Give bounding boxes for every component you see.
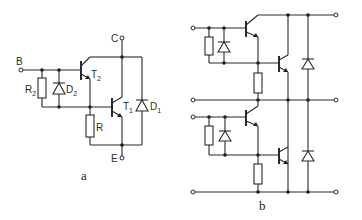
diode-upper-d2	[218, 42, 230, 52]
svg-text:T2: T2	[91, 69, 101, 82]
terminal-b	[19, 68, 23, 72]
label-b: B	[16, 56, 23, 67]
label-r2: R	[25, 84, 32, 95]
terminal-b-upper-input	[191, 26, 195, 30]
terminal-b-bottom-right	[334, 190, 338, 194]
terminal-c	[120, 36, 124, 40]
diode-lower-d2	[219, 131, 231, 141]
label-e: E	[111, 153, 118, 164]
label-d2: D	[66, 84, 73, 95]
svg-text:D2: D2	[66, 84, 77, 97]
caption-a: a	[81, 168, 87, 183]
resistor-r2	[38, 78, 46, 98]
terminal-b-middle-right	[334, 98, 338, 102]
resistor-upper-r	[254, 73, 262, 93]
diode-upper-d1	[302, 59, 314, 69]
terminal-e	[120, 156, 124, 160]
panel-b-half-bridge-circuit: b	[191, 13, 338, 213]
terminal-b-top-right	[334, 13, 338, 17]
terminal-b-lower-input	[191, 115, 195, 119]
svg-text:T1: T1	[123, 101, 133, 114]
resistor-upper-r2	[205, 37, 213, 55]
label-d1: D	[150, 101, 157, 112]
caption-b: b	[259, 198, 266, 213]
resistor-lower-r	[254, 164, 262, 184]
resistor-lower-r2	[205, 126, 213, 145]
label-c: C	[111, 33, 118, 44]
diode-lower-d1	[302, 151, 314, 161]
svg-text:D1: D1	[150, 101, 161, 114]
label-r: R	[96, 122, 103, 133]
panel-a-darlington-circuit: B C E R2 D2 T2 T1 D1 R a	[16, 33, 161, 183]
svg-text:R2: R2	[25, 84, 36, 97]
diode-d2	[53, 83, 65, 94]
terminal-b-middle-left	[191, 98, 195, 102]
resistor-r	[86, 115, 94, 137]
circuit-diagram: B C E R2 D2 T2 T1 D1 R a	[0, 0, 362, 220]
terminal-b-bottom-left	[191, 190, 195, 194]
diode-d1	[136, 100, 148, 111]
